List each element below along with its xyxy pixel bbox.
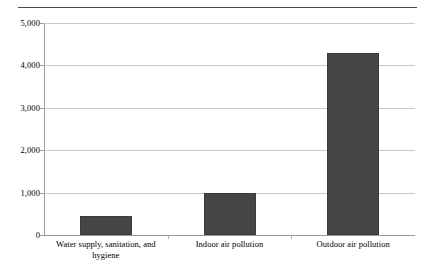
bars-layer — [44, 23, 415, 235]
x-label-1-line-0: Indoor air pollution — [168, 239, 292, 250]
y-tick-label-1000: 1,000 — [2, 189, 40, 198]
bar-2 — [327, 53, 379, 235]
bar-0 — [80, 216, 132, 235]
gridline-0 — [44, 235, 415, 236]
x-axis-category-labels: Water supply, sanitation, andhygieneIndo… — [44, 239, 415, 273]
y-tick-label-2000: 2,000 — [2, 146, 40, 155]
y-tick-label-3000: 3,000 — [2, 104, 40, 113]
x-category-label-1: Indoor air pollution — [168, 239, 292, 250]
y-tick-mark-0 — [40, 235, 44, 236]
x-category-label-2: Outdoor air pollution — [291, 239, 415, 250]
y-tick-label-0: 0 — [2, 231, 40, 240]
y-axis-tick-labels: 01,0002,0003,0004,0005,000 — [0, 0, 40, 274]
x-label-0-line-0: Water supply, sanitation, and — [44, 239, 168, 250]
x-category-label-0: Water supply, sanitation, andhygiene — [44, 239, 168, 260]
bar-chart: 01,0002,0003,0004,0005,000 Water supply,… — [0, 0, 431, 274]
bar-1 — [204, 193, 256, 235]
y-tick-label-5000: 5,000 — [2, 19, 40, 28]
x-label-2-line-0: Outdoor air pollution — [291, 239, 415, 250]
y-tick-label-4000: 4,000 — [2, 61, 40, 70]
x-label-0-line-1: hygiene — [44, 250, 168, 261]
